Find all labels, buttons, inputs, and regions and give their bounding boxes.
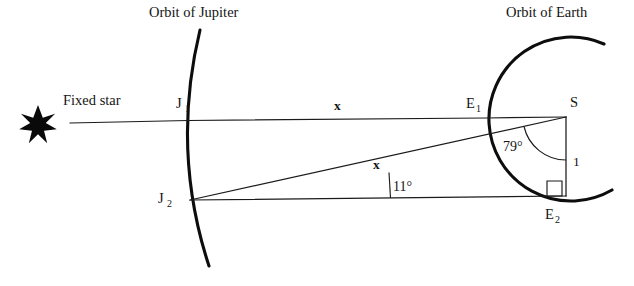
angle-label-11-degrees: 11°: [393, 179, 412, 194]
point-label-j2: J: [158, 190, 164, 206]
point-label-e1-subscript: 1: [476, 103, 481, 114]
sightline-star-to-sun: [70, 117, 566, 123]
earth-orbit-title: Orbit of Earth: [506, 4, 588, 20]
angle-marker-11-degrees: [389, 173, 391, 199]
fixed-star-icon: [19, 105, 57, 143]
point-label-j1-subscript: 1: [185, 103, 190, 114]
point-label-j2-subscript: 2: [167, 198, 172, 209]
earth-orbit-arc: [489, 37, 612, 201]
jupiter-orbit-arc: [187, 30, 209, 266]
geometry-diagram-canvas: Orbit of Jupiter Orbit of Earth Fixed st…: [0, 0, 634, 286]
parallax-diagram-svg: Orbit of Jupiter Orbit of Earth Fixed st…: [0, 0, 634, 286]
angle-marker-79-degrees: [524, 127, 566, 161]
point-label-sun: S: [570, 94, 578, 110]
point-label-e1: E: [466, 95, 475, 111]
fixed-star-label: Fixed star: [63, 92, 121, 108]
segment-j2-to-e2: [190, 196, 566, 200]
point-label-e2-subscript: 2: [555, 214, 560, 225]
angle-label-79-degrees: 79°: [503, 139, 523, 154]
length-label-x-diagonal: x: [373, 157, 380, 172]
right-angle-marker-e2: [547, 181, 562, 196]
point-label-e2: E: [545, 206, 554, 222]
point-label-j1: J: [176, 95, 182, 111]
jupiter-orbit-title: Orbit of Jupiter: [149, 4, 239, 20]
length-label-x-top: x: [334, 98, 341, 113]
length-label-one: 1: [573, 154, 580, 169]
